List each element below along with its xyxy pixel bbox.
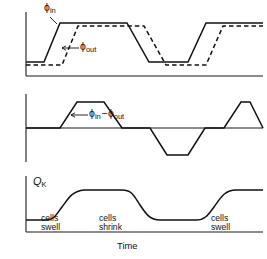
panel-osmotic-potentials (0, 0, 267, 85)
qk-symbol: Q (33, 175, 42, 187)
diff-phi-out-subscript: out (114, 112, 124, 121)
cells-shrink-line2: shrink (99, 223, 122, 232)
phi-out-trace (26, 26, 263, 65)
x-axis-label-text: Time (117, 240, 137, 251)
annotation-cells-swell-2: cells swell (211, 214, 230, 232)
phi-in-trace (26, 23, 263, 62)
phi-in-label: ϕin (44, 2, 56, 13)
phi-difference-label: ϕin−ϕout (89, 108, 124, 119)
phi-out-symbol: ϕ (80, 40, 86, 52)
phi-in-symbol: ϕ (44, 1, 50, 13)
annotation-cells-shrink: cells shrink (99, 214, 122, 232)
diff-phi-out-symbol: ϕ (108, 107, 114, 119)
phi-in-subscript: in (50, 6, 56, 15)
x-axis-label: Time (117, 241, 137, 251)
phi-out-subscript: out (86, 45, 96, 54)
cells-swell-2-line2: swell (211, 223, 230, 232)
diff-phi-in-symbol: ϕ (89, 107, 95, 119)
annotation-cells-swell-1: cells swell (41, 214, 60, 232)
diff-phi-in-subscript: in (95, 112, 101, 121)
figure-container: ϕin ϕout ϕin−ϕout QK cells swell cells s… (0, 0, 267, 259)
diff-minus-sign: − (101, 107, 108, 119)
qk-axis-label: QK (33, 176, 47, 188)
phi-out-label: ϕout (80, 41, 96, 52)
phi-in-leader (50, 17, 57, 24)
cells-swell-1-line2: swell (41, 223, 60, 232)
panel-potential-difference (0, 88, 267, 168)
qk-subscript: K (42, 180, 47, 189)
